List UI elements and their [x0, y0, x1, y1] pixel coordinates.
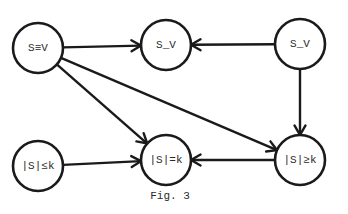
- edge-n1-to-n2: [63, 46, 141, 48]
- node-label-s-ge-k: |S|≥k: [283, 154, 316, 166]
- diagram-canvas: [0, 0, 348, 214]
- edge-n3-to-n2: [191, 44, 275, 45]
- node-label-s-v-right: S_V: [290, 38, 310, 50]
- node-label-s-le-k: |S|≤k: [21, 160, 54, 172]
- node-label-s-v-middle: S_V: [156, 39, 176, 51]
- figure-caption: Fig. 3: [150, 190, 190, 202]
- node-label-s-equiv-v: S≡V: [28, 42, 48, 54]
- node-label-s-eq-k: |S|=k: [149, 154, 182, 166]
- edge-n4-to-n5: [63, 161, 141, 165]
